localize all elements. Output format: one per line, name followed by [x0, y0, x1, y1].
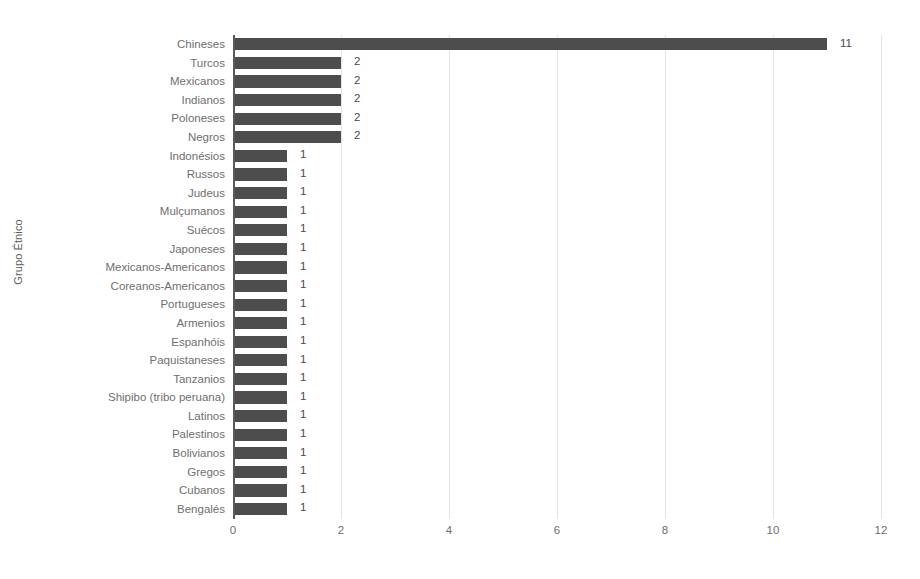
category-label: Armenios	[0, 314, 228, 333]
bar-value-label: 1	[300, 334, 306, 346]
bar-row: 1	[233, 370, 881, 389]
bar	[233, 150, 287, 162]
bar	[233, 168, 287, 180]
bar	[233, 373, 287, 385]
bar-value-label: 1	[300, 427, 306, 439]
x-tick-label: 8	[662, 524, 668, 536]
bar-value-label: 1	[300, 353, 306, 365]
bar-row: 1	[233, 277, 881, 296]
bar-row: 1	[233, 388, 881, 407]
x-axis-tick-labels: 024681012	[0, 524, 920, 548]
bar-value-label: 2	[354, 74, 360, 86]
bar-value-label: 1	[300, 222, 306, 234]
plot-area: 112222211111111111111111111	[233, 35, 881, 519]
bar-row: 2	[233, 128, 881, 147]
bar-value-label: 2	[354, 129, 360, 141]
bar-value-label: 1	[300, 278, 306, 290]
x-tick-label: 4	[446, 524, 452, 536]
category-label: Gregos	[0, 463, 228, 482]
bar-value-label: 1	[300, 501, 306, 513]
bar	[233, 317, 287, 329]
bar	[233, 429, 287, 441]
bar-value-label: 1	[300, 297, 306, 309]
bar-value-label: 1	[300, 204, 306, 216]
bar-value-label: 1	[300, 148, 306, 160]
category-label: Palestinos	[0, 425, 228, 444]
bar	[233, 336, 287, 348]
bar-value-label: 11	[840, 37, 852, 49]
bar-row: 2	[233, 109, 881, 128]
category-label: Portugueses	[0, 295, 228, 314]
bar-row: 1	[233, 351, 881, 370]
category-label: Japoneses	[0, 240, 228, 259]
bar-row: 1	[233, 425, 881, 444]
bar-value-label: 1	[300, 241, 306, 253]
bar	[233, 38, 827, 50]
category-label: Indonésios	[0, 147, 228, 166]
bar	[233, 57, 341, 69]
bar	[233, 299, 287, 311]
bar-value-label: 1	[300, 315, 306, 327]
bar-row: 1	[233, 314, 881, 333]
category-label: Latinos	[0, 407, 228, 426]
bar-row: 1	[233, 481, 881, 500]
bar-value-label: 1	[300, 390, 306, 402]
bar	[233, 261, 287, 273]
bar	[233, 391, 287, 403]
bar-value-label: 1	[300, 464, 306, 476]
bar-value-label: 1	[300, 260, 306, 272]
bar-row: 1	[233, 221, 881, 240]
category-label: Paquistaneses	[0, 351, 228, 370]
bar-row: 1	[233, 444, 881, 463]
bar	[233, 131, 341, 143]
bar-value-label: 1	[300, 371, 306, 383]
bar-value-label: 1	[300, 185, 306, 197]
category-label: Chineses	[0, 35, 228, 54]
x-tick-label: 10	[767, 524, 780, 536]
bar-row: 2	[233, 91, 881, 110]
bar-row: 1	[233, 147, 881, 166]
bar	[233, 187, 287, 199]
category-label: Indianos	[0, 91, 228, 110]
x-tick-label: 2	[338, 524, 344, 536]
bar	[233, 75, 341, 87]
category-label: Bolivianos	[0, 444, 228, 463]
y-axis-category-labels: ChinesesTurcosMexicanosIndianosPoloneses…	[0, 35, 228, 519]
bar	[233, 447, 287, 459]
bar	[233, 224, 287, 236]
category-label: Mexicanos-Americanos	[0, 258, 228, 277]
category-label: Poloneses	[0, 109, 228, 128]
category-label: Coreanos-Americanos	[0, 277, 228, 296]
bar-row: 1	[233, 184, 881, 203]
bar-value-label: 1	[300, 408, 306, 420]
category-label: Mulçumanos	[0, 202, 228, 221]
category-label: Judeus	[0, 184, 228, 203]
x-tick-label: 6	[554, 524, 560, 536]
bar-row: 1	[233, 202, 881, 221]
category-label: Mexicanos	[0, 72, 228, 91]
category-label: Negros	[0, 128, 228, 147]
x-tick-label: 12	[875, 524, 888, 536]
bar-row: 1	[233, 463, 881, 482]
bar-row: 1	[233, 165, 881, 184]
bar-row: 2	[233, 72, 881, 91]
bar-row: 1	[233, 500, 881, 519]
category-label: Cubanos	[0, 481, 228, 500]
bar	[233, 466, 287, 478]
bar	[233, 484, 287, 496]
category-label: Turcos	[0, 54, 228, 73]
bar-value-label: 1	[300, 167, 306, 179]
bar-value-label: 2	[354, 111, 360, 123]
bar-row: 11	[233, 35, 881, 54]
bar-row: 1	[233, 240, 881, 259]
bar	[233, 410, 287, 422]
bar-value-label: 2	[354, 55, 360, 67]
bar	[233, 243, 287, 255]
bar	[233, 503, 287, 515]
y-axis-line	[233, 35, 235, 519]
bar-rows: 112222211111111111111111111	[233, 35, 881, 518]
bar	[233, 94, 341, 106]
bar-row: 1	[233, 333, 881, 352]
bar-row: 1	[233, 258, 881, 277]
bar-row: 1	[233, 407, 881, 426]
